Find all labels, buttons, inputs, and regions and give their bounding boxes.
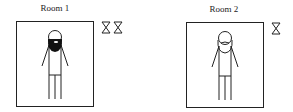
hourglass-icon bbox=[113, 21, 123, 34]
room-2-label: Room 2 bbox=[194, 4, 254, 14]
room-1-label: Room 1 bbox=[25, 3, 85, 13]
figure-dark-beard-icon bbox=[16, 21, 94, 107]
hourglass-icon bbox=[101, 21, 111, 34]
hourglass-icon bbox=[271, 22, 281, 35]
figure-light-beard-icon bbox=[186, 22, 264, 108]
